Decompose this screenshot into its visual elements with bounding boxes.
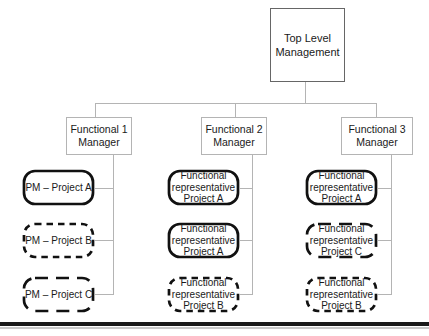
project-box-3-3: Functional representative Project B [305, 276, 378, 313]
manager-label-1: Functional 1 Manager [67, 123, 131, 149]
manager-label-3: Functional 3 Manager [342, 123, 412, 149]
project-box-label: PM – Project C [22, 289, 95, 301]
connector-stub-box-1-3 [95, 294, 113, 295]
project-box-label: Functional representative Project B [167, 277, 240, 312]
connector-drop-column-1 [113, 155, 114, 295]
connector-drop-column-2 [252, 155, 253, 295]
project-box-2-1: Functional representative Project A [167, 169, 240, 206]
connector-top-drop [305, 82, 306, 103]
project-box-2-3: Functional representative Project B [167, 276, 240, 313]
manager-box-3: Functional 3 Manager [341, 117, 413, 155]
project-box-label: Functional representative Project A [167, 170, 240, 205]
connector-stub-box-2-1 [240, 188, 252, 189]
bottom-rule-shadow [0, 327, 429, 329]
project-box-label: Functional representative Project B [305, 277, 378, 312]
connector-stub-manager-3 [376, 103, 377, 117]
project-box-2-2: Functional representative Project A [167, 222, 240, 259]
connector-stub-box-3-3 [378, 294, 391, 295]
project-box-label: Functional representative Project C [305, 223, 378, 258]
connector-stub-box-2-3 [240, 294, 252, 295]
project-box-label: Functional representative Project A [167, 223, 240, 258]
bottom-rule [0, 322, 429, 326]
connector-stub-manager-1 [95, 103, 96, 117]
project-box-label: PM – Project B [22, 235, 95, 247]
project-box-3-2: Functional representative Project C [305, 222, 378, 259]
project-box-label: Functional representative Project A [305, 170, 378, 205]
connector-horizontal [95, 103, 377, 104]
manager-box-1: Functional 1 Manager [66, 117, 132, 155]
project-box-3-1: Functional representative Project A [305, 169, 378, 206]
project-box-1-2: PM – Project B [22, 222, 95, 259]
project-box-label: PM – Project A [22, 182, 95, 194]
top-level-management-box: Top Level Management [270, 8, 345, 82]
project-box-1-1: PM – Project A [22, 169, 95, 206]
connector-stub-box-3-2 [378, 240, 391, 241]
manager-label-2: Functional 2 Manager [202, 123, 266, 149]
org-chart: Top Level Management Functional 1 Manage… [0, 0, 429, 336]
manager-box-2: Functional 2 Manager [201, 117, 267, 155]
connector-stub-box-2-2 [240, 240, 252, 241]
connector-stub-box-1-1 [95, 188, 113, 189]
connector-stub-box-1-2 [95, 240, 113, 241]
connector-stub-manager-2 [235, 103, 236, 117]
top-level-management-label: Top Level Management [271, 31, 344, 60]
project-box-1-3: PM – Project C [22, 276, 95, 313]
connector-drop-column-3 [391, 155, 392, 295]
connector-stub-box-3-1 [378, 188, 391, 189]
